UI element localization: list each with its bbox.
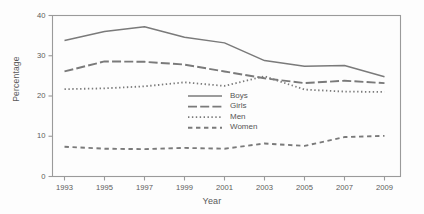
data-series-group (65, 27, 385, 149)
plot-area (0, 0, 424, 214)
legend-swatches (188, 96, 222, 128)
axis-ticks (49, 16, 385, 181)
plot-frame (53, 16, 401, 177)
series-line-women (65, 136, 385, 149)
series-line-girls (65, 61, 385, 83)
series-line-men (65, 76, 385, 92)
chart-figure: Percentage Year 010203040 19931995199719… (0, 0, 424, 214)
series-line-boys (65, 27, 385, 77)
